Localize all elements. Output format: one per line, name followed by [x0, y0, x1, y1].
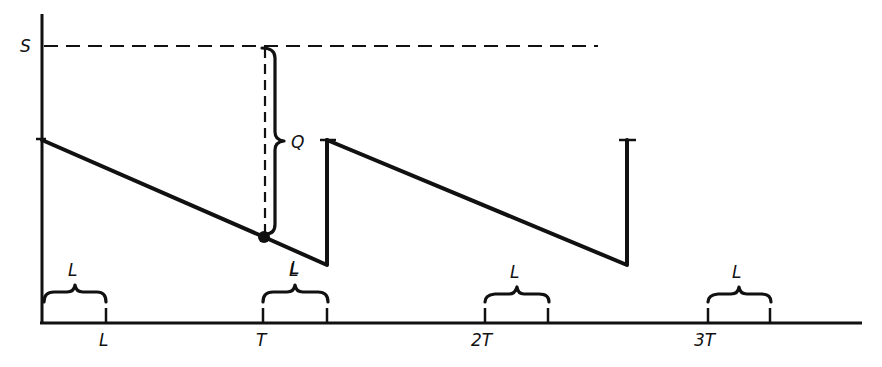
lead-time-brace-3 [485, 287, 549, 302]
lead-time-brace-2 [263, 285, 328, 302]
inventory-diagram: S Q L L L L L L T 2T 3T [0, 0, 882, 367]
lead-time-brace-label-2: L [289, 260, 298, 280]
label-Q: Q [291, 132, 304, 152]
inventory-level-cycle-1 [42, 140, 327, 265]
lead-time-brace-1 [44, 285, 106, 302]
x-label-T: T [256, 330, 268, 350]
label-S: S [20, 36, 31, 56]
lead-time-brace-label-1: L [68, 260, 77, 280]
inventory-level-cycle-2 [327, 140, 627, 265]
lead-time-brace-label-3: L [510, 262, 519, 282]
x-label-L: L [99, 330, 108, 350]
lead-time-brace-4 [708, 287, 771, 302]
lead-time-brace-label-4: L [732, 262, 741, 282]
x-label-2T: 2T [471, 330, 494, 350]
order-quantity-brace [262, 48, 284, 234]
x-label-3T: 3T [694, 330, 717, 350]
